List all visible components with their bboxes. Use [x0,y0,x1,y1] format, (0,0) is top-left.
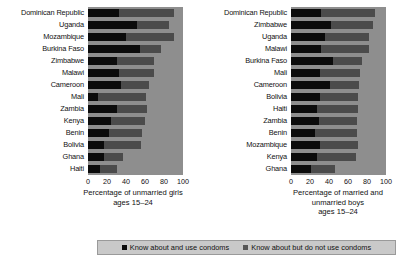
bar-segment-know-not-use [111,117,145,125]
bar-segment-use-condoms [88,165,100,173]
stacked-bar [291,141,358,149]
stacked-bar [291,33,369,41]
category-label: Bolivia [204,93,291,101]
chart-row: Burkina Faso [0,43,204,55]
bar-segment-know-not-use [140,45,161,53]
bar-segment-use-condoms [88,9,119,17]
bar-segment-know-not-use [100,165,117,173]
axis-tick-label: 40 [122,177,130,186]
category-label: Kenya [204,153,291,161]
bar-segment-know-not-use [319,117,358,125]
category-label: Cameroon [204,81,291,89]
bar-segment-use-condoms [291,81,330,89]
stacked-bar [291,153,356,161]
bar-segment-use-condoms [88,33,126,41]
category-label: Mozambique [204,141,291,149]
bar-segment-know-not-use [333,57,362,65]
bar-track [291,79,386,91]
bar-segment-know-not-use [311,165,335,173]
bar-track [88,127,183,139]
stacked-bar [88,45,161,53]
bar-segment-know-not-use [104,153,123,161]
bar-segment-use-condoms [291,153,317,161]
bar-segment-use-condoms [88,57,117,65]
bar-track [88,7,183,19]
bar-segment-use-condoms [88,93,98,101]
axis-title-line: Percentage of unmarried girls [48,188,218,198]
chart-row: Kenya [0,115,204,127]
bar-segment-use-condoms [291,69,320,77]
bar-segment-know-not-use [121,81,149,89]
stacked-bar [88,33,174,41]
bar-track [291,103,386,115]
chart-row: Malawi [204,43,407,55]
stacked-bar [88,21,169,29]
chart-panel-girls: Dominican RepublicUgandaMozambiqueBurkin… [0,0,204,230]
stacked-bar [291,9,375,17]
category-label: Malawi [204,45,291,53]
category-label: Zimbabwe [204,21,291,29]
chart-row: Cameroon [0,79,204,91]
bar-segment-know-not-use [117,57,153,65]
chart-row: Mali [0,91,204,103]
bar-track [291,127,386,139]
axis-title-line: ages 15–24 [48,198,218,208]
axis-tick-label: 20 [103,177,111,186]
bar-segment-use-condoms [291,129,315,137]
legend-label: Know about but do not use condoms [251,243,371,252]
stacked-bar [291,117,357,125]
x-axis-left: 020406080100 [88,175,183,189]
bar-segment-use-condoms [291,93,320,101]
bar-track [88,139,183,151]
stacked-bar [88,141,141,149]
category-label: Dominican Republic [0,9,88,17]
bar-segment-know-not-use [315,129,357,137]
category-label: Haiti [0,165,88,173]
bar-segment-know-not-use [321,9,374,17]
legend-label: Know about and use condoms [130,243,229,252]
chart-row: Bolivia [0,139,204,151]
bar-segment-know-not-use [109,129,142,137]
bar-track [291,91,386,103]
bar-segment-know-not-use [325,33,369,41]
bar-segment-know-not-use [320,93,358,101]
chart-row: Dominican Republic [204,7,407,19]
bar-segment-use-condoms [88,21,137,29]
stacked-bar [88,57,154,65]
stacked-bar [291,93,358,101]
stacked-bar [291,105,358,113]
axis-tick-label: 40 [325,177,333,186]
category-label: Malawi [0,69,88,77]
axis-title-line: Percentage of married and [249,188,407,198]
bar-track [291,163,386,175]
category-label: Zambia [0,105,88,113]
axis-tick-label: 80 [363,177,371,186]
bar-track [88,31,183,43]
bar-track [88,55,183,67]
stacked-bar [291,21,373,29]
bar-segment-know-not-use [321,45,369,53]
axis-tick-label: 80 [160,177,168,186]
bar-segment-use-condoms [291,45,321,53]
square-marker-icon [243,245,248,250]
bar-segment-use-condoms [291,105,317,113]
bar-track [88,79,183,91]
bar-segment-use-condoms [291,117,319,125]
legend-item: Know about and use condoms [122,243,229,252]
bar-segment-know-not-use [119,69,153,77]
stacked-bar [88,129,142,137]
bar-segment-use-condoms [88,105,117,113]
chart-row: Zimbabwe [0,55,204,67]
bar-track [291,67,386,79]
bar-segment-use-condoms [88,129,109,137]
bar-segment-use-condoms [291,33,325,41]
stacked-bar [88,165,117,173]
axis-tick-label: 100 [380,177,392,186]
stacked-bar [291,165,335,173]
bar-rows-right: Dominican RepublicZimbabweUgandaMalawiBu… [204,7,407,175]
category-label: Zimbabwe [0,57,88,65]
chart-row: Mali [204,67,407,79]
chart-row: Ghana [204,163,407,175]
square-marker-icon [122,245,127,250]
chart-row: Mozambique [0,31,204,43]
